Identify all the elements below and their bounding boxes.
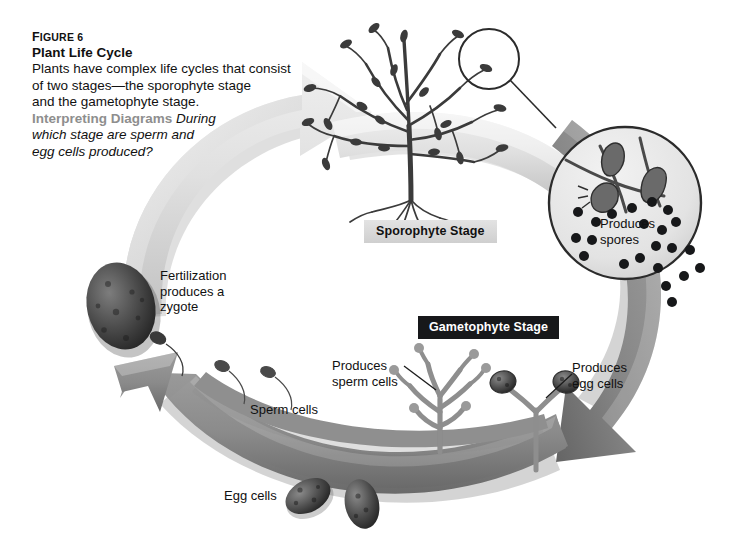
annotation-zygote: Fertilization produces a zygote bbox=[160, 268, 226, 315]
figure-canvas: FIGURE 6 Plant Life Cycle Plants have co… bbox=[0, 0, 742, 541]
annotation-egg-cells: Egg cells bbox=[224, 488, 277, 504]
gametophyte-stage-label: Gametophyte Stage bbox=[418, 316, 559, 339]
annotation-spores: Produces spores bbox=[600, 216, 655, 247]
figure-caption: FIGURE 6 Plant Life Cycle Plants have co… bbox=[32, 30, 332, 160]
figure-number: FIGURE 6 bbox=[32, 30, 332, 44]
skill-label: Interpreting Diagrams bbox=[32, 111, 172, 126]
figure-body-text: Plants have complex life cycles that con… bbox=[32, 61, 332, 111]
annotation-sperm-production: Produces sperm cells bbox=[332, 358, 398, 389]
magnifier-selection-circle bbox=[459, 29, 556, 128]
annotation-egg-production: Produces egg cells bbox=[572, 360, 627, 391]
annotation-sperm-cells: Sperm cells bbox=[250, 402, 318, 418]
figure-prompt: Interpreting Diagrams During which stage… bbox=[32, 111, 332, 161]
sporophyte-stage-label: Sporophyte Stage bbox=[364, 220, 497, 243]
figure-number-text: FIGURE 6 bbox=[32, 30, 83, 44]
figure-title: Plant Life Cycle bbox=[32, 45, 332, 60]
